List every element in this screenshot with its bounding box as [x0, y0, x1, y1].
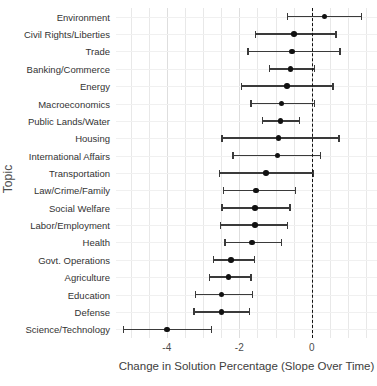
gridline-horizontal: [116, 34, 377, 35]
y-tick-label: Law/Crime/Family: [0, 185, 110, 196]
ci-cap-right: [295, 187, 296, 194]
data-point-marker: [275, 153, 281, 159]
ci-cap-left: [193, 308, 194, 315]
ci-cap-left: [221, 204, 222, 211]
ci-cap-left: [213, 256, 214, 263]
x-axis-title: Change in Solution Percentage (Slope Ove…: [116, 360, 377, 372]
ci-cap-right: [254, 256, 255, 263]
ci-cap-right: [252, 291, 253, 298]
data-point-marker: [263, 170, 269, 176]
ci-cap-right: [314, 65, 315, 72]
ci-cap-left: [221, 135, 222, 142]
data-point-marker: [249, 240, 255, 246]
data-point-marker: [164, 327, 170, 333]
ci-cap-left: [209, 274, 210, 281]
y-tick-label: Public Lands/Water: [0, 115, 110, 126]
ci-cap-left: [287, 13, 288, 20]
y-tick-label: Health: [0, 237, 110, 248]
y-tick-label: Housing: [0, 133, 110, 144]
ci-cap-right: [335, 31, 336, 38]
y-tick-label: Trade: [0, 46, 110, 57]
y-tick-label: International Affairs: [0, 150, 110, 161]
data-point-marker: [291, 31, 297, 37]
ci-cap-right: [314, 100, 315, 107]
ci-cap-left: [255, 31, 256, 38]
x-tick-label: -4: [162, 342, 171, 353]
ci-cap-right: [361, 13, 362, 20]
y-tick-label: Banking/Commerce: [0, 63, 110, 74]
gridline-horizontal: [116, 69, 377, 70]
x-axis-tick-labels: -4-20: [116, 342, 377, 356]
data-point-marker: [276, 135, 282, 141]
plot-panel: [116, 8, 377, 338]
ci-cap-left: [241, 83, 242, 90]
y-tick-label: Social Welfare: [0, 202, 110, 213]
y-tick-label: Agriculture: [0, 272, 110, 283]
topic-slope-dot-plot: Topic EnvironmentCivil Rights/LibertiesT…: [0, 0, 377, 386]
confidence-interval-bar: [223, 190, 296, 192]
ci-cap-right: [320, 152, 321, 159]
y-tick-label: Defense: [0, 306, 110, 317]
ci-cap-right: [211, 326, 212, 333]
data-point-marker: [284, 83, 290, 89]
ci-cap-right: [313, 170, 314, 177]
ci-cap-left: [269, 65, 270, 72]
gridline-horizontal: [116, 121, 377, 122]
ci-cap-left: [262, 117, 263, 124]
ci-cap-left: [224, 239, 225, 246]
y-tick-label: Macroeconomics: [0, 98, 110, 109]
data-point-marker: [252, 205, 258, 211]
data-point-marker: [278, 118, 284, 124]
ci-cap-right: [281, 239, 282, 246]
ci-cap-left: [250, 100, 251, 107]
x-tick-label: -2: [235, 342, 244, 353]
ci-cap-right: [287, 222, 288, 229]
y-tick-label: Transportation: [0, 168, 110, 179]
y-tick-label: Environment: [0, 11, 110, 22]
data-point-marker: [226, 274, 232, 280]
data-point-marker: [252, 222, 258, 228]
data-point-marker: [253, 188, 259, 194]
ci-cap-right: [289, 204, 290, 211]
zero-reference-line: [312, 8, 313, 338]
y-tick-label: Science/Technology: [0, 324, 110, 335]
y-tick-label: Energy: [0, 81, 110, 92]
ci-cap-right: [338, 135, 339, 142]
ci-cap-right: [339, 48, 340, 55]
ci-cap-right: [299, 117, 300, 124]
ci-cap-left: [232, 152, 233, 159]
ci-cap-left: [223, 187, 224, 194]
y-tick-label: Labor/Employment: [0, 220, 110, 231]
data-point-marker: [288, 66, 294, 72]
ci-cap-left: [220, 222, 221, 229]
data-point-marker: [228, 257, 234, 263]
gridline-horizontal: [116, 104, 377, 105]
data-point-marker: [279, 101, 285, 107]
ci-cap-left: [123, 326, 124, 333]
data-point-marker: [322, 14, 328, 20]
data-point-marker: [219, 292, 225, 298]
y-tick-label: Govt. Operations: [0, 254, 110, 265]
ci-cap-left: [195, 291, 196, 298]
ci-cap-right: [332, 83, 333, 90]
data-point-marker: [219, 309, 225, 315]
ci-cap-right: [250, 274, 251, 281]
x-tick-label: 0: [309, 342, 315, 353]
ci-cap-left: [247, 48, 248, 55]
y-tick-label: Education: [0, 289, 110, 300]
ci-cap-right: [249, 308, 250, 315]
y-tick-label: Civil Rights/Liberties: [0, 29, 110, 40]
ci-cap-left: [219, 170, 220, 177]
data-point-marker: [289, 49, 295, 55]
